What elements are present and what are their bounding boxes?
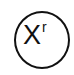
- node-symbol: X: [23, 20, 41, 50]
- node-superscript: r: [42, 19, 47, 35]
- node-label: Xr: [23, 22, 46, 49]
